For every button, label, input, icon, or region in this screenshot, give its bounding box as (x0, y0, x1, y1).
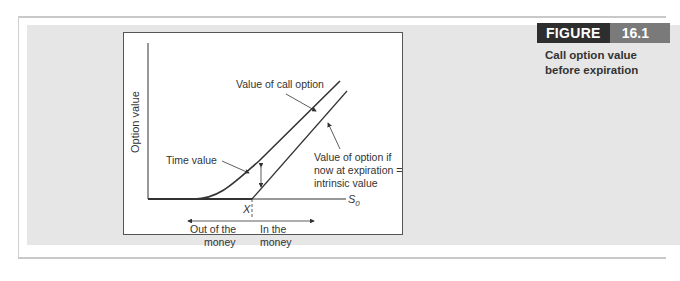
caption-line-1: Call option value (545, 48, 665, 63)
frame-top-rule (18, 16, 666, 18)
figure-header: FIGURE 16.1 (537, 23, 670, 43)
call-value-label: Value of call option (236, 78, 324, 90)
time-value-label: Time value (166, 154, 217, 166)
time-value-pointer (222, 161, 249, 173)
strike-label: X (242, 203, 251, 215)
figure-label: FIGURE (537, 23, 610, 43)
call-value-pointer (286, 94, 316, 111)
option-value-chart: Option value S0 X Out of the In the Valu… (124, 33, 404, 236)
x-axis-label: S0 (348, 193, 360, 208)
intrinsic-label-3: intrinsic value (314, 177, 378, 189)
frame-bottom-rule (18, 257, 666, 259)
intrinsic-label-1: Value of option if (314, 151, 392, 163)
intrinsic-pointer (328, 123, 340, 149)
intrinsic-label-2: now at expiration = (314, 164, 402, 176)
chart-box: Option value S0 X Out of the In the Valu… (123, 32, 403, 235)
caption-line-2: before expiration (545, 63, 665, 78)
y-axis-label: Option value (129, 91, 141, 153)
frame-left-rule (18, 16, 19, 259)
figure-caption: Call option value before expiration (545, 48, 665, 78)
out-of-money-label-1: Out of the (190, 223, 236, 235)
call-value-curve (148, 81, 340, 199)
figure-number: 16.1 (610, 23, 670, 43)
in-money-label-1: In the (260, 223, 286, 235)
